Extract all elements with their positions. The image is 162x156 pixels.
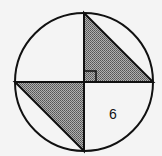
geometry-figure: 6 — [0, 0, 162, 156]
circle-diagram: 6 — [0, 0, 162, 156]
radius-label: 6 — [109, 106, 117, 122]
